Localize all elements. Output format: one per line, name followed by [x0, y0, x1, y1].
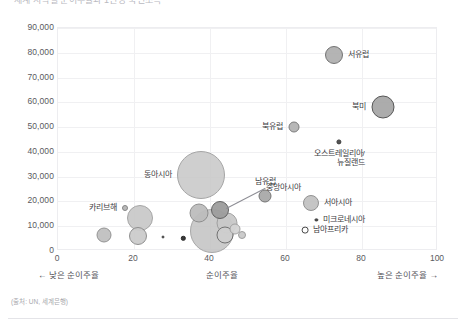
y-axis-tick-label: 30,000	[2, 171, 54, 181]
point-label-서유럽: 서유럽	[348, 51, 369, 60]
x-axis: 020406080100	[57, 250, 437, 266]
bubble-오스트레일리아--뉴질랜드[interactable]	[337, 139, 342, 144]
bubble-북유럽[interactable]	[288, 122, 299, 133]
x-axis-tick-label: 40	[204, 253, 213, 263]
point-label-남아프리카: 남아프리카	[313, 225, 348, 234]
bubble-중앙아시아[interactable]	[211, 201, 229, 219]
bubble-북미[interactable]	[371, 96, 394, 119]
y-axis-tick-label: 60,000	[2, 96, 54, 106]
bubble-카리브해[interactable]	[122, 205, 128, 211]
x-axis-tick-label: 100	[430, 253, 444, 263]
axis-caption-mid: 순이주율	[206, 268, 238, 280]
axis-captions: ← 낮은 순이주율 순이주율 높은 순이주율 →	[0, 268, 466, 284]
bubble-unlabeled[interactable]	[161, 236, 164, 239]
gridline-horizontal	[58, 127, 436, 128]
y-axis-tick-label: 80,000	[2, 47, 54, 57]
point-label-서아시아: 서아시아	[324, 198, 352, 207]
x-axis-tick-label: 60	[280, 253, 289, 263]
plot-area: 서유럽북미북유럽오스트레일리아/뉴질랜드동아시아남유럽서아시아미크로네시아남아프…	[57, 27, 437, 250]
x-axis-tick-label: 20	[128, 253, 137, 263]
y-axis-tick-label: 0	[2, 245, 54, 255]
point-label-중앙아시아: 중앙아시아	[266, 184, 301, 193]
point-label-오스트레일리아--뉴질랜드: 오스트레일리아/뉴질랜드	[314, 148, 365, 166]
gridline-horizontal	[58, 53, 436, 54]
gridline-horizontal	[58, 78, 436, 79]
bubble-unlabeled[interactable]	[96, 227, 111, 242]
y-axis-tick-label: 40,000	[2, 146, 54, 156]
y-axis: 010,00020,00030,00040,00050,00060,00070,…	[0, 27, 54, 250]
y-axis-tick-label: 20,000	[2, 195, 54, 205]
gridline-horizontal	[58, 152, 436, 153]
gridline-vertical	[286, 28, 287, 249]
source-note: (출처: UN, 세계은행)	[11, 296, 68, 306]
gridline-horizontal	[58, 177, 436, 178]
x-axis-tick-label: 80	[356, 253, 365, 263]
y-axis-tick-label: 70,000	[2, 72, 54, 82]
bubble-동아시아[interactable]	[177, 151, 225, 199]
bubble-남아프리카[interactable]	[302, 227, 309, 234]
page-title: 세계 지역별 순이주율과 1인당 국민소득	[14, 0, 161, 6]
point-label-카리브해: 카리브해	[89, 203, 117, 212]
chart-figure: 세계 지역별 순이주율과 1인당 국민소득 010,00020,00030,00…	[0, 0, 466, 325]
y-axis-tick-label: 10,000	[2, 220, 54, 230]
axis-caption-low: ← 낮은 순이주율	[38, 268, 99, 280]
gridline-horizontal	[58, 28, 436, 29]
bubble-서아시아[interactable]	[303, 195, 319, 211]
bubble-서유럽[interactable]	[325, 46, 343, 64]
bubble-미크로네시아[interactable]	[315, 218, 318, 221]
y-axis-tick-label: 50,000	[2, 121, 54, 131]
y-axis-tick-label: 90,000	[2, 22, 54, 32]
point-label-동아시아: 동아시아	[144, 171, 172, 180]
point-label-북유럽: 북유럽	[262, 123, 283, 132]
bubble-unlabeled[interactable]	[129, 227, 147, 245]
point-label-북미: 북미	[352, 103, 366, 112]
x-axis-tick-label: 0	[55, 253, 60, 263]
axis-caption-high: 높은 순이주율 →	[377, 268, 438, 280]
gridline-horizontal	[58, 226, 436, 227]
bubble-unlabeled[interactable]	[181, 236, 185, 240]
point-label-미크로네시아: 미크로네시아	[323, 215, 365, 224]
bottom-divider	[8, 318, 458, 319]
bubble-unlabeled[interactable]	[238, 231, 246, 239]
bubble-unlabeled[interactable]	[189, 203, 208, 222]
